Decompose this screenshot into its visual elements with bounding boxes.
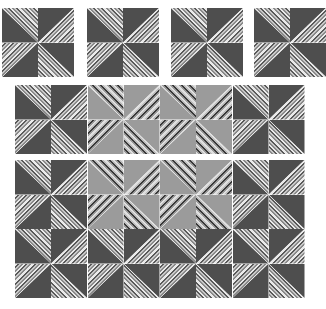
hst-square-tl: [233, 85, 269, 120]
hst-square-tr: [269, 229, 305, 264]
hst-square-tr: [196, 85, 232, 120]
hst-square-tr: [290, 8, 326, 43]
pinwheel-block-light: [88, 160, 160, 229]
hst-square-tl: [160, 85, 196, 120]
hst-square-bl: [15, 195, 51, 230]
hst-square-tl: [2, 8, 38, 43]
hst-square-bl: [171, 43, 207, 78]
hst-square-tl: [15, 229, 51, 264]
hst-square-tr: [196, 229, 232, 264]
hst-square-br: [290, 43, 326, 78]
hst-square-tr: [38, 8, 74, 43]
hst-square-br: [123, 43, 159, 78]
hst-square-tl: [88, 85, 124, 120]
hst-square-bl: [233, 195, 269, 230]
pinwheel-block-light: [160, 85, 232, 154]
hst-square-br: [124, 120, 160, 155]
hst-square-tl: [160, 229, 196, 264]
pinwheel-block-dark: [233, 160, 305, 229]
hst-square-br: [269, 264, 305, 299]
pinwheel-block-dark: [171, 8, 243, 77]
hst-square-tr: [51, 229, 87, 264]
hst-square-tr: [269, 160, 305, 195]
hst-square-tr: [51, 85, 87, 120]
hst-square-br: [124, 264, 160, 299]
hst-square-br: [38, 43, 74, 78]
pinwheel-block-dark: [15, 229, 87, 298]
pinwheel-block-dark: [15, 85, 87, 154]
hst-square-br: [196, 264, 232, 299]
pinwheel-block-dark: [233, 85, 305, 154]
pinwheel-block-dark: [87, 8, 159, 77]
hst-square-tl: [254, 8, 290, 43]
hst-square-tr: [124, 85, 160, 120]
hst-square-tl: [171, 8, 207, 43]
pinwheel-block-dark: [254, 8, 326, 77]
hst-square-br: [124, 195, 160, 230]
pinwheel-block-dark: [15, 160, 87, 229]
hst-square-tl: [15, 85, 51, 120]
hst-square-br: [51, 264, 87, 299]
hst-square-bl: [160, 264, 196, 299]
hst-square-br: [269, 195, 305, 230]
hst-square-tr: [123, 8, 159, 43]
hst-square-bl: [160, 120, 196, 155]
hst-square-br: [51, 195, 87, 230]
hst-square-tr: [124, 160, 160, 195]
hst-square-br: [207, 43, 243, 78]
hst-square-tl: [160, 160, 196, 195]
hst-square-tr: [124, 229, 160, 264]
hst-square-tl: [15, 160, 51, 195]
hst-square-br: [269, 120, 305, 155]
pinwheel-block-light: [88, 85, 160, 154]
hst-square-br: [196, 195, 232, 230]
hst-square-tr: [269, 85, 305, 120]
pinwheel-block-dark: [2, 8, 74, 77]
hst-square-tr: [51, 160, 87, 195]
hst-square-tl: [88, 160, 124, 195]
hst-square-bl: [160, 195, 196, 230]
hst-square-bl: [2, 43, 38, 78]
hst-square-bl: [254, 43, 290, 78]
hst-square-bl: [88, 264, 124, 299]
hst-square-bl: [233, 264, 269, 299]
pinwheel-block-dark: [160, 229, 232, 298]
hst-square-br: [196, 120, 232, 155]
hst-square-tl: [233, 229, 269, 264]
hst-square-bl: [233, 120, 269, 155]
hst-square-tl: [87, 8, 123, 43]
hst-square-bl: [87, 43, 123, 78]
hst-square-bl: [15, 120, 51, 155]
hst-square-bl: [88, 195, 124, 230]
hst-square-tl: [233, 160, 269, 195]
hst-square-br: [51, 120, 87, 155]
hst-square-tr: [207, 8, 243, 43]
hst-square-bl: [88, 120, 124, 155]
hst-square-tl: [88, 229, 124, 264]
hst-square-bl: [15, 264, 51, 299]
pinwheel-block-dark: [88, 229, 160, 298]
pinwheel-block-dark: [233, 229, 305, 298]
hst-square-tr: [196, 160, 232, 195]
pinwheel-block-light: [160, 160, 232, 229]
